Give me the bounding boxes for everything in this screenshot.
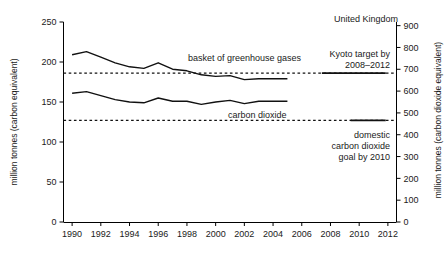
kyoto-target-label-line2: 2008–2012 xyxy=(345,60,390,70)
y2-tick-label: 200 xyxy=(404,174,419,184)
kyoto-target-label-line1: Kyoto target by xyxy=(329,49,390,59)
left-axis-ticks: 050100150200250 xyxy=(41,17,63,227)
domestic-goal-label-line1: domestic xyxy=(354,130,391,140)
y2-tick-label: 300 xyxy=(404,152,419,162)
co2-series-label: carbon dioxide xyxy=(228,110,287,120)
y2-tick-label: 500 xyxy=(404,108,419,118)
y2-tick-label: 800 xyxy=(404,43,419,53)
y-tick-label: 150 xyxy=(41,97,56,107)
y-axis-title: million tonnes (carbon equivalent) xyxy=(9,58,19,185)
series-line-carbon-dioxide xyxy=(72,92,287,105)
x-tick-label: 1996 xyxy=(148,229,168,239)
x-tick-label: 2010 xyxy=(349,229,369,239)
domestic-goal-label-line2: carbon dioxide xyxy=(331,141,390,151)
x-tick-label: 2000 xyxy=(206,229,226,239)
y2-tick-label: 700 xyxy=(404,64,419,74)
domestic-goal-label-line3: goal by 2010 xyxy=(338,152,390,162)
emissions-line-chart: 050100150200250 010020030040050060070080… xyxy=(0,0,448,259)
y-tick-label: 250 xyxy=(41,17,56,27)
x-tick-label: 1992 xyxy=(91,229,111,239)
y2-tick-label: 0 xyxy=(404,217,409,227)
y-tick-label: 50 xyxy=(46,177,56,187)
x-tick-label: 1998 xyxy=(177,229,197,239)
y2-tick-label: 900 xyxy=(404,21,419,31)
y2-tick-label: 100 xyxy=(404,195,419,205)
y-tick-label: 0 xyxy=(51,217,56,227)
region-label: United Kingdom xyxy=(334,14,398,24)
y2-tick-label: 600 xyxy=(404,86,419,96)
y-tick-label: 200 xyxy=(41,57,56,67)
y2-axis-title: million tonnes (carbon dioxide equivalen… xyxy=(433,42,443,199)
x-tick-label: 2012 xyxy=(378,229,398,239)
chart-container: 050100150200250 010020030040050060070080… xyxy=(0,0,448,259)
y-tick-label: 100 xyxy=(41,137,56,147)
bottom-axis-ticks: 1990199219941996199820002002200420062008… xyxy=(62,222,398,239)
x-tick-label: 2008 xyxy=(320,229,340,239)
x-tick-label: 1990 xyxy=(62,229,82,239)
x-tick-label: 2006 xyxy=(292,229,312,239)
y2-tick-label: 400 xyxy=(404,130,419,140)
x-tick-label: 1994 xyxy=(120,229,140,239)
x-tick-label: 2004 xyxy=(263,229,283,239)
x-tick-label: 2002 xyxy=(234,229,254,239)
basket-series-label: basket of greenhouse gases xyxy=(188,53,302,63)
right-axis-ticks: 0100200300400500600700800900 xyxy=(397,21,419,227)
